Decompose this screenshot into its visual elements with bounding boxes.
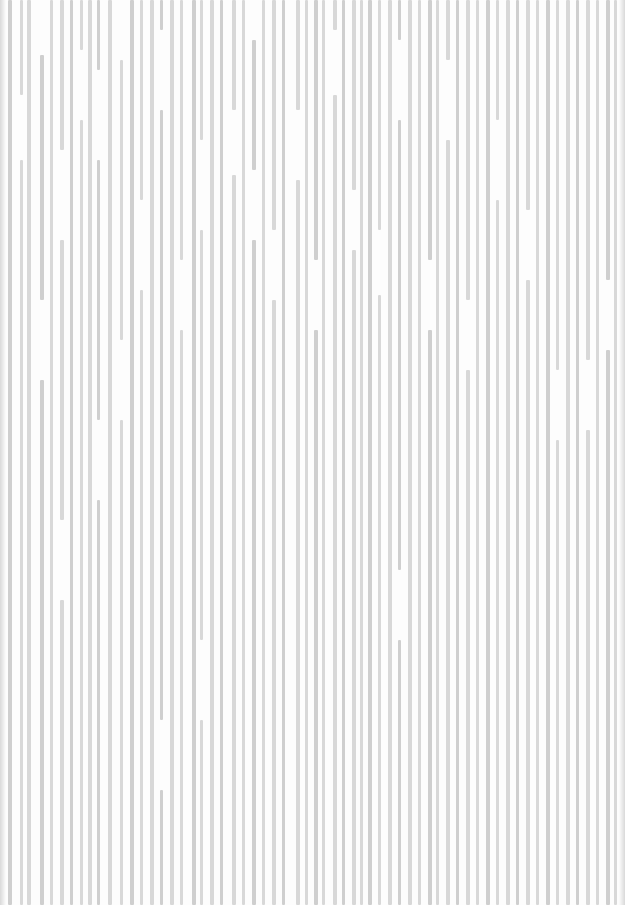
stripe-segment (200, 720, 203, 905)
stripe-segment (388, 0, 392, 905)
stripe-segment (180, 0, 183, 260)
stripe-segment (398, 0, 401, 40)
stripe-segment (556, 440, 559, 905)
stripe-segment (516, 0, 519, 905)
stripe-segment (466, 0, 470, 300)
stripe-segment (314, 0, 318, 260)
stripe-segment (160, 0, 163, 30)
stripe-segment (140, 0, 143, 200)
stripe-segment (546, 0, 550, 905)
stripe-segment (282, 0, 285, 905)
stripe-segment (108, 0, 112, 905)
stripe-segment (232, 175, 236, 905)
stripe-segment (88, 0, 92, 905)
left-edge-shadow (0, 0, 6, 905)
stripe-segment (20, 160, 23, 905)
stripe-segment (80, 0, 83, 50)
stripe-segment (180, 330, 183, 905)
stripe-segment (60, 240, 64, 520)
stripe-segment (305, 0, 308, 905)
stripe-segment (486, 0, 490, 905)
stripe-segment (496, 200, 499, 905)
stripe-segment (398, 640, 401, 905)
stripe-segment (476, 0, 479, 905)
stripe-segment (272, 300, 276, 905)
stripe-segment (170, 0, 174, 905)
stripe-segment (352, 250, 356, 905)
stripe-segment (242, 0, 245, 905)
stripe-segment (60, 0, 64, 150)
stripe-segment (40, 380, 44, 905)
stripe-segment (496, 0, 499, 120)
stripe-segment (120, 420, 123, 905)
stripe-segment (97, 0, 100, 70)
stripe-segment (120, 60, 123, 340)
stripe-segment (398, 120, 401, 570)
stripe-segment (262, 0, 265, 905)
stripe-segment (252, 240, 256, 905)
stripe-segment (428, 0, 432, 260)
stripe-segment (526, 0, 530, 210)
stripe-segment (130, 0, 134, 905)
stripe-segment (556, 0, 559, 370)
stripe-segment (436, 0, 439, 905)
stripe-segment (160, 790, 163, 905)
stripe-segment (526, 280, 530, 905)
stripe-segment (378, 0, 381, 230)
stripe-segment (606, 350, 610, 905)
stripe-segment (614, 0, 617, 905)
stripe-segment (360, 0, 363, 905)
stripe-segment (20, 0, 23, 95)
stripe-texture (0, 0, 625, 905)
stripe-segment (80, 120, 83, 905)
stripe-segment (97, 160, 100, 420)
stripe-segment (70, 0, 73, 905)
stripe-segment (140, 290, 143, 905)
stripe-segment (446, 0, 450, 60)
stripe-segment (296, 0, 300, 110)
stripe-segment (606, 0, 610, 280)
stripe-segment (150, 0, 154, 905)
stripe-segment (566, 0, 570, 905)
stripe-segment (586, 0, 590, 360)
stripe-segment (232, 0, 236, 110)
stripe-segment (97, 500, 100, 905)
stripe-segment (220, 0, 223, 905)
stripe-segment (60, 600, 64, 905)
stripe-segment (418, 0, 421, 905)
stripe-segment (446, 140, 450, 905)
stripe-segment (27, 0, 31, 905)
stripe-segment (192, 0, 196, 905)
stripe-segment (576, 0, 579, 905)
stripe-segment (333, 0, 337, 30)
stripe-segment (466, 370, 470, 905)
stripe-segment (506, 0, 510, 905)
stripe-segment (428, 330, 432, 905)
stripe-segment (456, 0, 459, 905)
stripe-segment (322, 0, 325, 905)
stripe-segment (408, 0, 412, 905)
stripe-segment (368, 0, 372, 905)
stripe-segment (8, 0, 12, 905)
stripe-segment (200, 230, 203, 640)
stripe-segment (252, 40, 256, 170)
stripe-segment (314, 330, 318, 905)
stripe-segment (333, 95, 337, 905)
stripe-segment (160, 110, 163, 720)
stripe-segment (586, 430, 590, 905)
stripe-segment (40, 55, 44, 300)
stripe-segment (210, 0, 214, 905)
stripe-segment (536, 0, 539, 905)
stripe-segment (342, 0, 345, 905)
stripe-segment (352, 0, 356, 190)
stripe-segment (50, 0, 53, 905)
right-edge-shadow (619, 0, 625, 905)
stripe-segment (596, 0, 599, 905)
stripe-segment (272, 0, 276, 230)
stripe-segment (378, 295, 381, 905)
stripe-segment (200, 0, 203, 140)
stripe-segment (296, 180, 300, 905)
